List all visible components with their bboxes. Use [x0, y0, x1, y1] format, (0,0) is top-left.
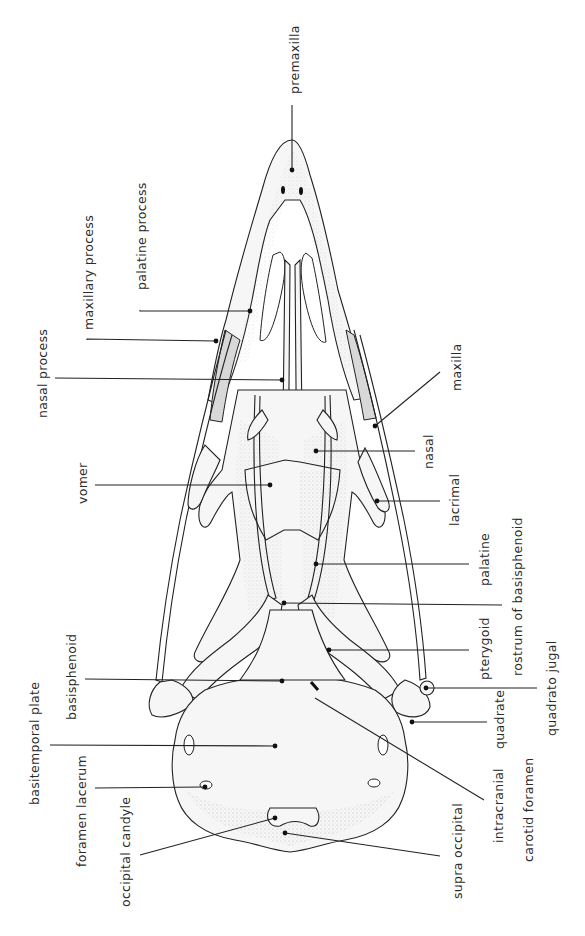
- label-quadrato-jugal: quadrato jugal: [545, 641, 559, 736]
- label-nasal: nasal: [422, 434, 436, 469]
- label-lacrimal: lacrimal: [448, 474, 462, 526]
- label-pterygoid: pterygoid: [478, 617, 492, 680]
- label-carotid-foramen: carotid foramen: [522, 758, 536, 862]
- label-quadrate: quadrate: [493, 690, 507, 749]
- label-occipital-candyle: occipital candyle: [119, 797, 133, 907]
- label-nasal-process: nasal process: [36, 329, 50, 418]
- label-palatine: palatine: [478, 533, 492, 586]
- label-maxilla: maxilla: [450, 344, 464, 391]
- label-basisphenoid: basisphenoid: [65, 634, 79, 720]
- label-foramen-lacerum: foramen lacerum: [75, 755, 89, 867]
- label-maxillary-process: maxillary process: [82, 215, 96, 330]
- label-palatine-process: palatine process: [135, 182, 149, 290]
- label-supra-occipital: supra occipital: [451, 803, 465, 899]
- label-vomer: vomer: [76, 462, 90, 504]
- label-premaxilla: premaxilla: [288, 25, 302, 94]
- label-basitemporal-plate: basitemporal plate: [28, 682, 42, 805]
- label-rostrum-of-basisphenoid: rostrum of basisphenoid: [511, 517, 525, 676]
- label-intracranial: intracranial: [492, 768, 506, 843]
